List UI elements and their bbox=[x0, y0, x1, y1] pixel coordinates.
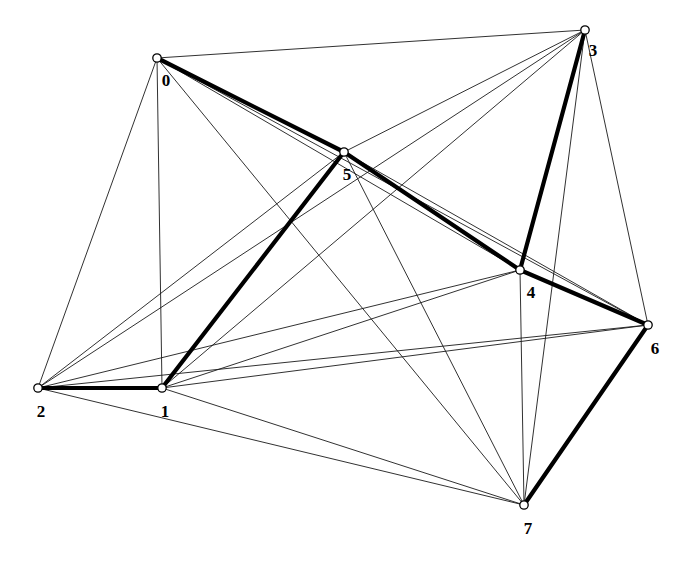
graph-edge bbox=[38, 30, 585, 388]
graph-edge bbox=[38, 270, 520, 388]
graph-edge bbox=[520, 270, 524, 505]
graph-svg: 01234567 bbox=[0, 0, 684, 568]
graph-edge bbox=[38, 325, 648, 388]
graph-edge bbox=[157, 58, 344, 152]
graph-node-3[interactable] bbox=[581, 26, 589, 34]
graph-edge bbox=[524, 325, 648, 505]
thin-edge-layer bbox=[38, 30, 648, 505]
graph-node-4[interactable] bbox=[516, 266, 524, 274]
graph-node-label-4: 4 bbox=[527, 283, 536, 302]
graph-node-2[interactable] bbox=[34, 384, 42, 392]
graph-edge bbox=[344, 30, 585, 152]
graph-node-label-1: 1 bbox=[161, 402, 170, 421]
graph-edge bbox=[344, 152, 524, 505]
bold-edge-layer bbox=[38, 30, 648, 505]
graph-edge bbox=[157, 58, 524, 505]
graph-edge bbox=[520, 270, 648, 325]
graph-node-0[interactable] bbox=[153, 54, 161, 62]
graph-edge bbox=[157, 30, 585, 58]
graph-node-6[interactable] bbox=[644, 321, 652, 329]
graph-node-label-7: 7 bbox=[524, 519, 533, 538]
graph-edge bbox=[162, 270, 520, 388]
graph-edge bbox=[162, 152, 344, 388]
graph-node-label-6: 6 bbox=[651, 339, 660, 358]
graph-node-1[interactable] bbox=[158, 384, 166, 392]
graph-node-label-2: 2 bbox=[37, 402, 46, 421]
graph-node-label-5: 5 bbox=[343, 165, 352, 184]
graph-canvas: 01234567 bbox=[0, 0, 684, 568]
graph-edge bbox=[157, 58, 162, 388]
graph-node-label-3: 3 bbox=[589, 41, 598, 60]
graph-edge bbox=[344, 152, 648, 325]
graph-edge bbox=[344, 152, 520, 270]
graph-edge bbox=[38, 58, 157, 388]
node-layer bbox=[34, 26, 652, 509]
graph-edge bbox=[524, 30, 585, 505]
graph-edge bbox=[162, 388, 524, 505]
graph-edge bbox=[162, 325, 648, 388]
graph-node-7[interactable] bbox=[520, 501, 528, 509]
graph-node-label-0: 0 bbox=[162, 71, 171, 90]
graph-edge bbox=[38, 388, 524, 505]
graph-edge bbox=[585, 30, 648, 325]
graph-node-5[interactable] bbox=[340, 148, 348, 156]
